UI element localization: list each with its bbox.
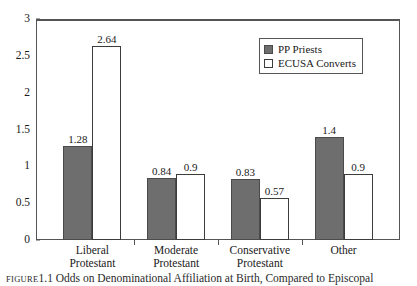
bar-value-label: 0.84 (152, 166, 171, 177)
x-category-label-moderate-protestant: Moderate Protestant (153, 244, 199, 269)
x-category-line: Moderate (153, 244, 199, 257)
x-category-line: Protestant (230, 257, 291, 270)
x-category-label-liberal-protestant: Liberal Protestant (69, 244, 115, 269)
bar-value-label: 0.9 (184, 162, 198, 173)
y-tick-label: 2.5 (16, 50, 30, 62)
x-category-line: Conservative (230, 244, 291, 257)
legend-swatch-icon (264, 45, 273, 54)
figure-caption: FIGURE1.1 Odds on Denominational Affilia… (6, 272, 411, 286)
bar[interactable]: 0.83 (231, 179, 260, 240)
legend: PP Priests ECUSA Converts (259, 38, 363, 74)
bar-value-label: 0.9 (351, 162, 365, 173)
bar-value-label: 2.64 (97, 34, 116, 45)
x-category-line: Protestant (153, 257, 199, 270)
y-tick-label: 1.5 (16, 124, 30, 136)
caption-lead: FIGURE (6, 274, 39, 284)
caption-text: 1.1 Odds on Denominational Affiliation a… (39, 272, 374, 284)
legend-swatch-icon (264, 59, 273, 68)
x-category-label-other: Other (330, 244, 356, 257)
y-tick-label: 1 (24, 161, 30, 173)
x-category-line: Liberal (69, 244, 115, 257)
bar[interactable]: 0.57 (260, 198, 289, 240)
bar[interactable]: 1.28 (63, 146, 92, 240)
bar-value-label: 1.28 (68, 134, 87, 145)
x-category-line: Other (330, 244, 356, 257)
bar-group-moderate-protestant: 0.84 0.9 (142, 19, 211, 240)
x-category-line: Protestant (69, 257, 115, 270)
legend-label: PP Priests (278, 44, 322, 55)
y-tick-label: 3 (24, 13, 30, 25)
y-tick-label: 0.5 (16, 197, 30, 209)
bar[interactable]: 0.84 (147, 178, 176, 240)
bar-value-label: 0.57 (265, 186, 284, 197)
bar[interactable]: 0.9 (344, 174, 373, 240)
bar[interactable]: 2.64 (92, 46, 121, 240)
x-axis-labels: Liberal Protestant Moderate Protestant C… (36, 244, 400, 274)
x-category-label-conservative-protestant: Conservative Protestant (230, 244, 291, 269)
y-axis: 3 2.5 2 1.5 1 0.5 0 (0, 19, 36, 240)
bar-value-label: 1.4 (322, 125, 336, 136)
bar-value-label: 0.83 (236, 167, 255, 178)
bar[interactable]: 0.9 (176, 174, 205, 240)
legend-item-pp-priests[interactable]: PP Priests (264, 42, 356, 56)
legend-label: ECUSA Converts (278, 58, 356, 69)
y-tick-label: 0 (24, 234, 30, 246)
bar[interactable]: 1.4 (315, 137, 344, 240)
y-tick-label: 2 (24, 87, 30, 99)
legend-item-ecusa-converts[interactable]: ECUSA Converts (264, 56, 356, 70)
bar-group-liberal-protestant: 1.28 2.64 (58, 19, 127, 240)
